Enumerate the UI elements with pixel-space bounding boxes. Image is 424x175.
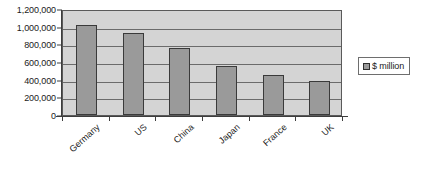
- bar-group: [63, 11, 341, 115]
- x-axis-category-label: China: [171, 122, 195, 145]
- y-axis-tick-label: 800,000: [24, 40, 56, 50]
- bar: [123, 33, 144, 115]
- x-axis-category-label: US: [133, 122, 149, 138]
- x-axis-label-group: GermanyUSChinaJapanFranceUK: [0, 122, 424, 175]
- plot-inner: [63, 11, 341, 115]
- chart-legend: $ million: [358, 57, 410, 75]
- x-axis-category-label: UK: [319, 122, 335, 138]
- plot-area: [62, 10, 342, 116]
- x-axis-tick-mark: [109, 116, 110, 121]
- x-axis-tick-mark: [155, 116, 156, 121]
- legend-swatch-icon: [363, 63, 370, 70]
- x-axis-tick-mark: [249, 116, 250, 121]
- legend-label: $ million: [372, 61, 404, 71]
- y-axis-tick-label: 1,000,000: [17, 23, 56, 33]
- bar: [263, 75, 284, 115]
- y-axis-tick-label: 400,000: [24, 76, 56, 86]
- bar: [309, 81, 330, 115]
- x-axis-category-label: France: [261, 122, 289, 148]
- bar: [76, 25, 97, 115]
- y-axis-label-group: 1,200,0001,000,000800,000600,000400,0002…: [0, 10, 56, 115]
- y-axis-tick-label: 1,200,000: [17, 5, 56, 15]
- bar: [169, 48, 190, 115]
- x-axis-tick-mark: [202, 116, 203, 121]
- x-axis-tick-mark: [295, 116, 296, 121]
- bar: [216, 66, 237, 115]
- y-axis-tick-label: 200,000: [24, 93, 56, 103]
- x-axis-tick-mark: [62, 116, 63, 121]
- x-axis-tick-mark: [342, 116, 343, 121]
- bar-chart: 1,200,0001,000,000800,000600,000400,0002…: [0, 0, 424, 175]
- x-axis-category-label: Germany: [68, 122, 102, 154]
- y-axis-tick-label: 600,000: [24, 58, 56, 68]
- x-axis-category-label: Japan: [217, 122, 242, 146]
